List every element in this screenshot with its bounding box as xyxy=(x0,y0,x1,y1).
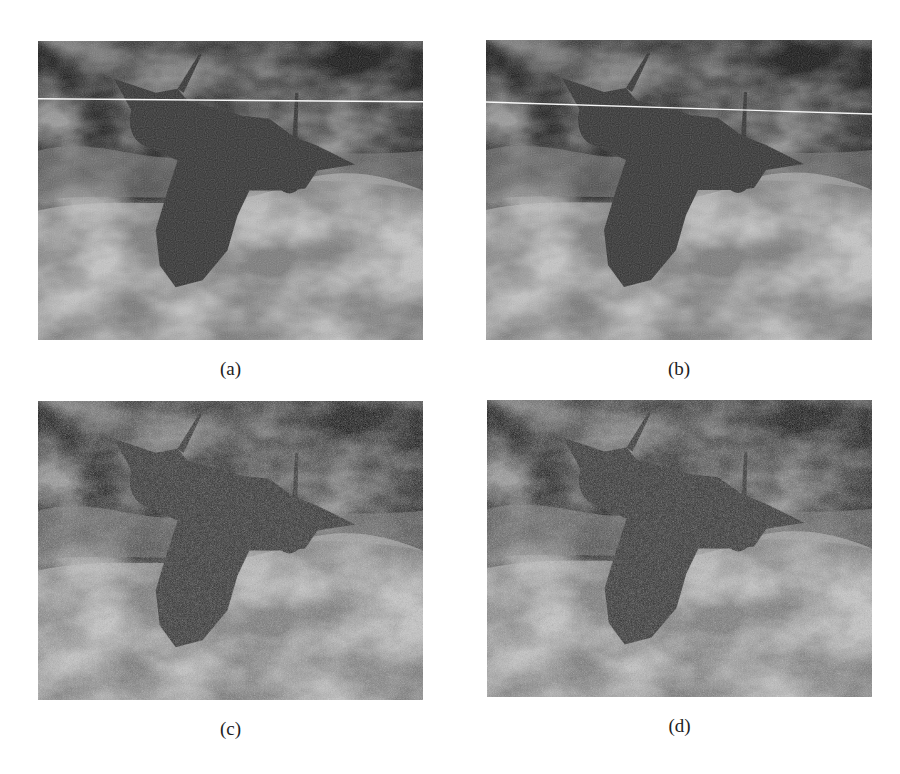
photo-c xyxy=(38,401,423,700)
caption-d: (d) xyxy=(640,715,720,737)
photo-a xyxy=(38,41,423,340)
aircraft-photo-c xyxy=(38,401,423,700)
caption-c: (c) xyxy=(191,718,271,740)
photo-d xyxy=(487,400,872,697)
panel-c: (c) xyxy=(38,401,423,760)
panel-b: (b) xyxy=(486,40,872,400)
panel-a: (a) xyxy=(38,41,423,400)
photo-b xyxy=(486,40,872,340)
panel-d: (d) xyxy=(487,400,872,757)
aircraft-photo-d xyxy=(487,400,872,697)
caption-b: (b) xyxy=(639,358,719,380)
aircraft-photo-b xyxy=(486,40,872,340)
caption-a: (a) xyxy=(191,358,271,380)
aircraft-photo-a xyxy=(38,41,423,340)
